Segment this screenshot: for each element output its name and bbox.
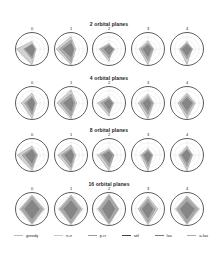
radar-plot [53, 31, 89, 67]
radar-plot [169, 85, 205, 121]
radar-plot [14, 31, 50, 67]
radar-panel: 4 [168, 26, 206, 70]
radar-panel: 2 [90, 80, 128, 124]
radar-plot [53, 85, 89, 121]
radar-plot [169, 31, 205, 67]
radar-panel: 1 [52, 80, 90, 124]
radar-panel: 0 [13, 132, 51, 176]
radar-panel: 4 [168, 132, 206, 176]
radar-plot [53, 191, 89, 227]
legend-item-a-las: a-las [187, 233, 208, 238]
radar-plot [91, 85, 127, 121]
radar-plot [14, 85, 50, 121]
radar-plot [130, 31, 166, 67]
radar-panel: 1 [52, 26, 90, 70]
radar-panel: 4 [168, 186, 206, 230]
radar-panel: 0 [13, 26, 51, 70]
legend-swatch-icon [14, 235, 23, 236]
radar-panel: 3 [129, 186, 167, 230]
radar-panel: 3 [129, 80, 167, 124]
chart-legend: greedy n-rr p-rr util las a-las [14, 231, 208, 239]
radar-panel: 1 [52, 132, 90, 176]
legend-item-p-rr: p-rr [88, 233, 106, 238]
radar-plot [53, 137, 89, 173]
radar-plot [91, 31, 127, 67]
radar-panel: 3 [129, 132, 167, 176]
radar-plot [14, 137, 50, 173]
radar-panel: 4 [168, 80, 206, 124]
legend-item-n-rr: n-rr [54, 233, 72, 238]
radar-panel: 2 [90, 186, 128, 230]
radar-panel: 3 [129, 26, 167, 70]
radar-panel: 2 [90, 26, 128, 70]
radar-panel: 0 [13, 80, 51, 124]
radar-plot [169, 137, 205, 173]
legend-item-las: las [155, 233, 172, 238]
legend-swatch-icon [54, 235, 63, 236]
radar-plot [130, 191, 166, 227]
legend-item-greedy: greedy [14, 233, 38, 238]
radar-plot [91, 191, 127, 227]
legend-swatch-icon [122, 235, 131, 236]
legend-swatch-icon [187, 235, 196, 236]
legend-swatch-icon [155, 235, 164, 236]
radar-panel: 1 [52, 186, 90, 230]
radar-plot [169, 191, 205, 227]
radar-plot [91, 137, 127, 173]
radar-panel: 2 [90, 132, 128, 176]
legend-item-util: util [122, 233, 139, 238]
radar-panel: 0 [13, 186, 51, 230]
radar-plot [130, 137, 166, 173]
legend-swatch-icon [88, 235, 97, 236]
radar-plot [130, 85, 166, 121]
radar-plot [14, 191, 50, 227]
